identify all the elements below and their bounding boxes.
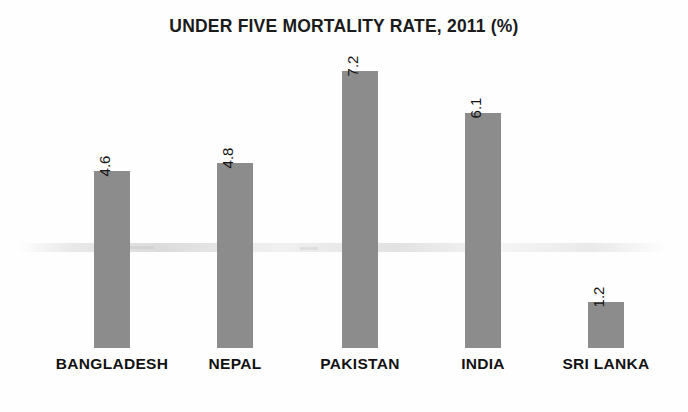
bar-value-label-india: 6.1 bbox=[468, 98, 483, 119]
bar-group-sri-lanka: 1.2 bbox=[546, 48, 666, 348]
bar-value-label-pakistan: 7.2 bbox=[345, 56, 360, 77]
category-label-sri-lanka: SRI LANKA bbox=[526, 355, 686, 373]
bar-value-label-bangladesh: 4.6 bbox=[97, 156, 112, 177]
plot-area: 4.6 BANGLADESH 4.8 NEPAL 7.2 PAKISTAN 6.… bbox=[0, 0, 688, 412]
bar-group-india: 6.1 bbox=[423, 48, 543, 348]
bar-value-label-sri-lanka: 1.2 bbox=[591, 286, 606, 307]
bar-group-pakistan: 7.2 bbox=[300, 48, 420, 348]
bar-sri-lanka[interactable]: 1.2 bbox=[588, 302, 624, 348]
bar-bangladesh[interactable]: 4.6 bbox=[94, 171, 130, 348]
bar-nepal[interactable]: 4.8 bbox=[217, 163, 253, 348]
bar-value-label-nepal: 4.8 bbox=[220, 148, 235, 169]
bar-india[interactable]: 6.1 bbox=[465, 113, 501, 348]
bar-group-bangladesh: 4.6 bbox=[52, 48, 172, 348]
bar-pakistan[interactable]: 7.2 bbox=[342, 71, 378, 348]
chart-container: UNDER FIVE MORTALITY RATE, 2011 (%) 4.6 … bbox=[0, 0, 688, 412]
bar-group-nepal: 4.8 bbox=[175, 48, 295, 348]
